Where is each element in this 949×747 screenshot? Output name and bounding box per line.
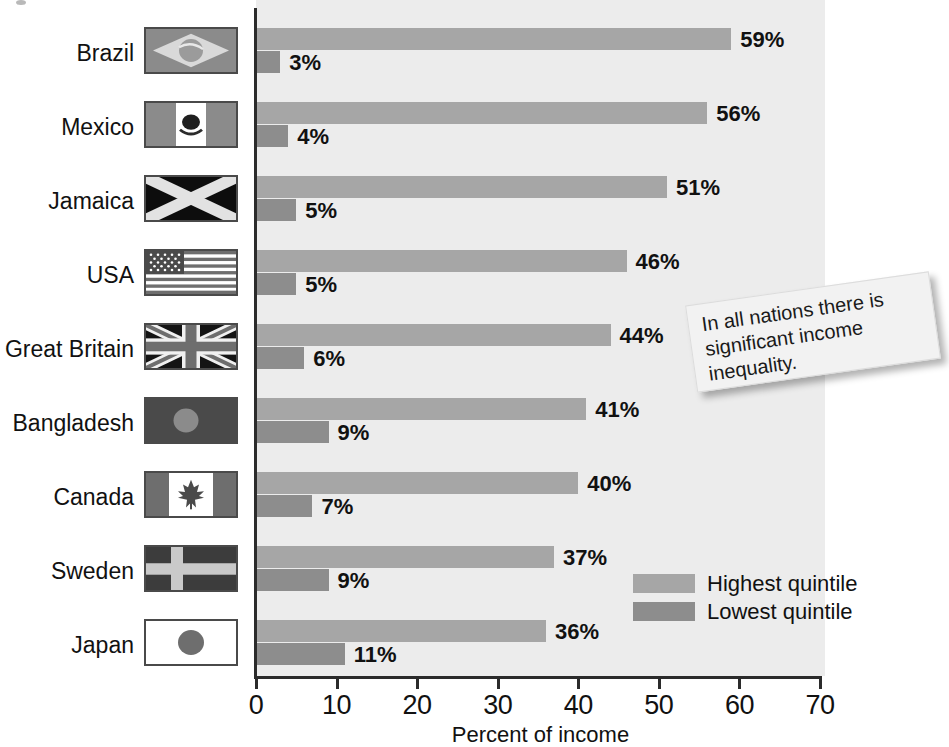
- flag-bangladesh-icon: [144, 397, 238, 444]
- bar-lowest-quintile: [256, 347, 304, 369]
- bar-highest-quintile: [256, 28, 731, 50]
- x-tick-label: 0: [226, 690, 286, 721]
- bar-value-lowest-quintile: 6%: [313, 346, 345, 372]
- x-tick-mark: [416, 679, 419, 689]
- bar-lowest-quintile: [256, 495, 312, 517]
- flag-jamaica-icon: [144, 175, 238, 222]
- bar-value-highest-quintile: 41%: [595, 397, 639, 423]
- chart-row-brazil: Brazil59%3%: [0, 22, 949, 96]
- bar-value-lowest-quintile: 4%: [297, 124, 329, 150]
- legend-swatch-highest-quintile: [633, 574, 695, 593]
- bar-lowest-quintile: [256, 421, 329, 443]
- x-axis-title: Percent of income: [256, 722, 825, 747]
- bar-value-highest-quintile: 59%: [740, 27, 784, 53]
- bar-value-lowest-quintile: 9%: [338, 420, 370, 446]
- bar-lowest-quintile: [256, 569, 329, 591]
- y-axis-line: [254, 8, 257, 676]
- legend-label-highest-quintile: Highest quintile: [707, 571, 857, 597]
- chart-figure: Brazil59%3%Mexico56%4%Jamaica51%5%USA46%…: [0, 0, 949, 747]
- chart-row-mexico: Mexico56%4%: [0, 96, 949, 170]
- bar-value-lowest-quintile: 5%: [305, 198, 337, 224]
- bar-value-highest-quintile: 44%: [620, 323, 664, 349]
- country-label: Brazil: [0, 40, 134, 67]
- country-label: Japan: [0, 632, 134, 659]
- flag-usa-icon: [144, 249, 238, 296]
- country-label: Jamaica: [0, 188, 134, 215]
- flag-canada-icon: [144, 471, 238, 518]
- bar-highest-quintile: [256, 250, 627, 272]
- bar-value-highest-quintile: 56%: [716, 101, 760, 127]
- bar-value-highest-quintile: 46%: [636, 249, 680, 275]
- bar-lowest-quintile: [256, 51, 280, 73]
- x-tick-mark: [819, 679, 822, 689]
- x-tick-mark: [336, 679, 339, 689]
- bar-value-lowest-quintile: 5%: [305, 272, 337, 298]
- x-tick-mark: [255, 679, 258, 689]
- bar-highest-quintile: [256, 102, 707, 124]
- x-tick-label: 30: [468, 690, 528, 721]
- x-tick-label: 10: [307, 690, 367, 721]
- country-label: Great Britain: [0, 336, 134, 363]
- bar-lowest-quintile: [256, 643, 345, 665]
- bar-value-highest-quintile: 51%: [676, 175, 720, 201]
- x-tick-mark: [658, 679, 661, 689]
- country-label: Sweden: [0, 558, 134, 585]
- bar-value-lowest-quintile: 9%: [338, 568, 370, 594]
- country-label: Bangladesh: [0, 410, 134, 437]
- bar-lowest-quintile: [256, 273, 296, 295]
- bar-value-lowest-quintile: 7%: [321, 494, 353, 520]
- flag-brazil-icon: [144, 27, 238, 74]
- x-tick-label: 70: [790, 690, 850, 721]
- x-tick-mark: [497, 679, 500, 689]
- bar-value-highest-quintile: 36%: [555, 619, 599, 645]
- bar-highest-quintile: [256, 324, 611, 346]
- bar-value-lowest-quintile: 11%: [354, 642, 397, 668]
- bar-highest-quintile: [256, 472, 578, 494]
- flag-mexico-icon: [144, 101, 238, 148]
- x-axis-line: [254, 676, 822, 679]
- x-tick-label: 40: [548, 690, 608, 721]
- scan-artifact: [16, 0, 26, 5]
- flag-sweden-icon: [144, 545, 238, 592]
- bar-lowest-quintile: [256, 125, 288, 147]
- x-tick-mark: [738, 679, 741, 689]
- flag-japan-icon: [144, 619, 238, 666]
- bar-value-lowest-quintile: 3%: [289, 50, 321, 76]
- chart-row-bangladesh: Bangladesh41%9%: [0, 392, 949, 466]
- legend-label-lowest-quintile: Lowest quintile: [707, 599, 853, 625]
- chart-row-jamaica: Jamaica51%5%: [0, 170, 949, 244]
- country-label: Mexico: [0, 114, 134, 141]
- bar-highest-quintile: [256, 620, 546, 642]
- x-tick-mark: [577, 679, 580, 689]
- bar-highest-quintile: [256, 546, 554, 568]
- flag-great-britain-icon: [144, 323, 238, 370]
- bar-value-highest-quintile: 40%: [587, 471, 631, 497]
- x-tick-label: 20: [387, 690, 447, 721]
- x-tick-label: 60: [709, 690, 769, 721]
- bar-highest-quintile: [256, 398, 586, 420]
- country-label: Canada: [0, 484, 134, 511]
- chart-row-canada: Canada40%7%: [0, 466, 949, 540]
- bar-highest-quintile: [256, 176, 667, 198]
- x-tick-label: 50: [629, 690, 689, 721]
- bar-value-highest-quintile: 37%: [563, 545, 607, 571]
- country-label: USA: [0, 262, 134, 289]
- legend-swatch-lowest-quintile: [633, 602, 695, 621]
- bar-lowest-quintile: [256, 199, 296, 221]
